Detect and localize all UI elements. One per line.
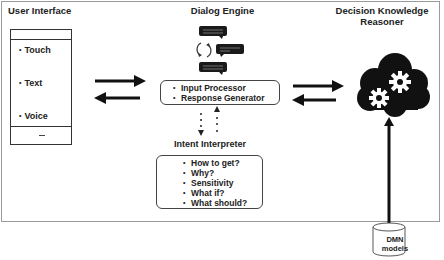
intent-label: What if? <box>191 188 225 198</box>
bullet-icon: • <box>183 188 191 198</box>
dotted-arrow-up-icon <box>214 106 220 132</box>
arrow-right-icon <box>293 80 344 92</box>
intent-label: What should? <box>191 198 247 208</box>
chat-bubble-icon <box>199 62 227 75</box>
component-label: Response Generator <box>181 93 265 103</box>
component-input-processor: •Input Processor <box>173 83 279 93</box>
dotted-arrow-down-icon <box>198 113 204 136</box>
bullet-icon: • <box>183 198 191 208</box>
bullet-icon: • <box>173 93 181 103</box>
component-label: Input Processor <box>181 83 246 93</box>
intent-what-should: •What should? <box>183 198 262 208</box>
arrow-left-icon <box>94 92 140 104</box>
intent-label: Sensitivity <box>191 178 234 188</box>
bullet-icon: • <box>173 83 181 93</box>
intent-how-to-get: •How to get? <box>183 158 262 168</box>
dmn-line1: DMN <box>372 235 418 244</box>
intent-label: Why? <box>191 168 214 178</box>
dmn-models-label: DMN models <box>372 235 418 253</box>
intent-what-if: •What if? <box>183 188 262 198</box>
dialog-components-box: •Input Processor •Response Generator <box>160 80 280 105</box>
arrow-up-icon <box>384 117 394 226</box>
chat-bubble-icon <box>216 44 244 57</box>
bullet-icon: • <box>183 158 191 168</box>
intent-sensitivity: •Sensitivity <box>183 178 262 188</box>
bullet-icon: • <box>183 168 191 178</box>
cloud-gears-icon <box>357 53 430 117</box>
component-response-generator: •Response Generator <box>173 93 279 103</box>
chat-bubble-icon <box>199 26 227 39</box>
intent-why: •Why? <box>183 168 262 178</box>
refresh-cycle-icon <box>197 43 211 57</box>
connector-arrows <box>0 0 444 260</box>
intent-list-box: •How to get? •Why? •Sensitivity •What if… <box>156 155 263 209</box>
dmn-line2: models <box>372 244 418 253</box>
intent-interpreter-title: Intent Interpreter <box>160 139 260 149</box>
arrow-left-icon <box>292 94 336 106</box>
arrow-right-icon <box>95 75 146 87</box>
intent-label: How to get? <box>191 158 240 168</box>
bullet-icon: • <box>183 178 191 188</box>
